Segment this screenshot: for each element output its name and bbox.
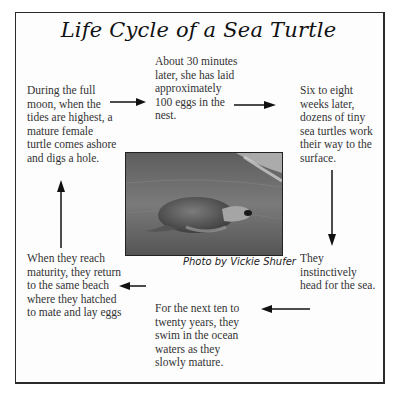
- arrow-right-icon: [108, 96, 148, 108]
- stage-laying: About 30 minutes later, she has laid app…: [155, 55, 241, 123]
- stage-hatching: Six to eight weeks later, dozens of tiny…: [300, 84, 380, 165]
- arrow-right-icon: [232, 99, 278, 111]
- diagram-title: Life Cycle of a Sea Turtle: [0, 18, 397, 42]
- arrow-left-icon: [260, 303, 312, 315]
- stage-ocean-years: For the next ten to twenty years, they s…: [155, 302, 245, 370]
- stage-nesting: During the full moon, when the tides are…: [27, 84, 119, 165]
- arrow-up-icon: [55, 178, 67, 250]
- stage-to-sea: They instinctively head for the sea.: [300, 252, 380, 293]
- arrow-left-icon: [118, 280, 148, 292]
- arrow-down-icon: [326, 168, 338, 248]
- photo-caption: Photo by Vickie Shufer: [183, 256, 296, 267]
- stage-return: When they reach maturity, they return to…: [27, 252, 122, 320]
- sea-turtle-photo: [125, 152, 283, 256]
